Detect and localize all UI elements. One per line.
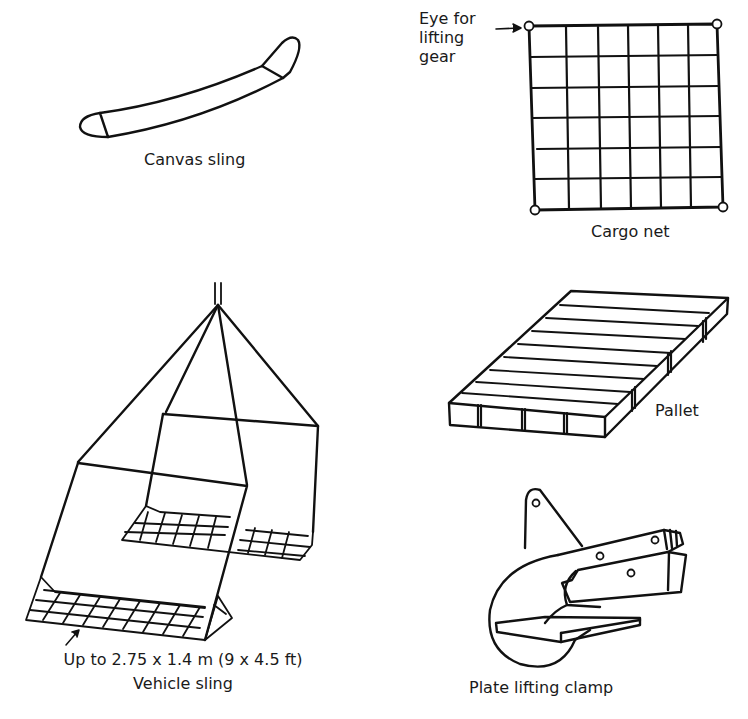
eye-arrow-icon — [496, 24, 521, 32]
plate-lifting-clamp-label: Plate lifting clamp — [469, 678, 613, 697]
eye-annotation-line-1: Eye for — [419, 9, 476, 28]
cargo-net-drawing — [496, 20, 728, 215]
eye-annotation-line-3: gear — [419, 47, 455, 66]
vehicle-sling-drawing — [26, 283, 318, 645]
dimension-arrow-icon — [66, 630, 79, 645]
vehicle-sling-dimension-note: Up to 2.75 x 1.4 m (9 x 4.5 ft) — [63, 650, 302, 669]
eye-annotation-line-2: lifting — [419, 28, 464, 47]
cargo-net-label: Cargo net — [591, 222, 670, 241]
canvas-sling-drawing — [80, 38, 299, 137]
plate-lifting-clamp-drawing — [489, 489, 686, 667]
vehicle-sling-label: Vehicle sling — [133, 674, 233, 693]
canvas-sling-label: Canvas sling — [144, 150, 245, 169]
pallet-label: Pallet — [655, 401, 699, 420]
